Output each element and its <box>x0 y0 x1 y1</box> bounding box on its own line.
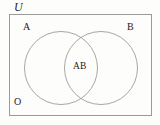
set-a-label: A <box>23 22 30 32</box>
complement-region-label: O <box>14 97 21 107</box>
venn-diagram-canvas: U A B AB O <box>0 0 160 125</box>
universal-set-label: U <box>14 1 23 13</box>
set-b-label: B <box>127 22 134 32</box>
intersection-region-label: AB <box>73 62 87 72</box>
